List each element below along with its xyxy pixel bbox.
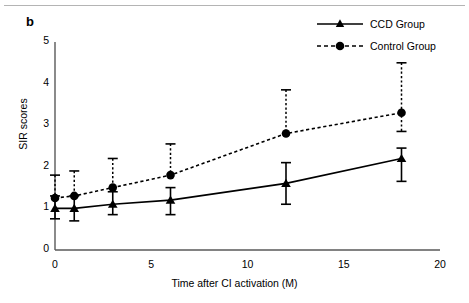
x-tick-label: 10	[238, 258, 258, 270]
x-tick-label: 20	[430, 258, 450, 270]
data-point-marker	[397, 108, 406, 117]
legend-sample-dashed-circle-icon	[315, 37, 365, 55]
error-bar	[166, 144, 176, 175]
series-ccd-group	[50, 148, 407, 221]
y-axis-label: SIR scores	[17, 84, 29, 164]
y-tick-label: 0	[29, 242, 49, 254]
error-bar	[397, 63, 407, 132]
x-tick-label: 0	[45, 258, 65, 270]
error-bar	[108, 158, 118, 187]
legend-label-ccd-group: CCD Group	[370, 18, 425, 30]
y-tick-label: 4	[29, 76, 49, 88]
legend-sample-solid-triangle-icon	[315, 15, 365, 33]
error-bar	[281, 90, 291, 134]
y-tick-label: 3	[29, 117, 49, 129]
x-axis-label: Time after CI activation (M)	[0, 277, 469, 289]
data-point-marker	[397, 154, 407, 162]
error-bar	[397, 148, 407, 181]
x-tick-label: 5	[141, 258, 161, 270]
figure-panel: b SIR scores Time after CI activation (M…	[0, 0, 469, 303]
y-tick-label: 5	[29, 34, 49, 46]
y-tick-label: 2	[29, 159, 49, 171]
legend-label-control-group: Control Group	[370, 40, 436, 52]
data-point-marker	[108, 183, 117, 192]
y-tick-label: 1	[29, 200, 49, 212]
series-line	[55, 113, 402, 198]
x-tick-label: 15	[334, 258, 354, 270]
series-line	[55, 158, 402, 208]
data-point-marker	[70, 192, 79, 201]
data-point-marker	[282, 129, 291, 138]
chart-legend: CCD Group Control Group	[315, 13, 465, 57]
legend-item-control-group: Control Group	[315, 35, 465, 57]
legend-item-ccd-group: CCD Group	[315, 13, 465, 35]
data-point-marker	[51, 194, 60, 203]
data-point-marker	[166, 171, 175, 180]
series-control-group	[50, 63, 407, 203]
